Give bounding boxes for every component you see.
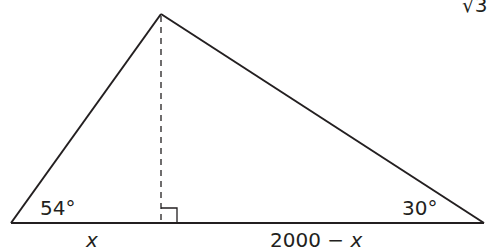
corner-fragment: √3 — [462, 0, 487, 17]
left-side — [11, 14, 161, 223]
segment-label-2000-minus-x: 2000 − x — [270, 228, 362, 252]
right-angle-marker — [161, 208, 177, 222]
triangle-diagram: √3 54° 30° x 2000 − x — [0, 0, 487, 252]
right-side — [161, 14, 484, 223]
segment-label-x: x — [85, 228, 98, 252]
angle-label-right: 30° — [402, 196, 437, 220]
angle-label-left: 54° — [40, 196, 75, 220]
